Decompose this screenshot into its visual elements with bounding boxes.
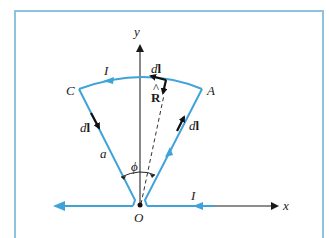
r-hat-label: R [151, 90, 161, 105]
wire-radial-left [79, 89, 135, 206]
biot-savart-loop-diagram: y x O C A I I a ϕ dl dl dl ^ R [0, 0, 329, 238]
origin-point [138, 203, 143, 208]
dl-label-right: dl [189, 118, 200, 133]
current-arrow-arc [103, 77, 114, 84]
radius-label: a [100, 146, 107, 161]
y-axis-label: y [132, 24, 140, 39]
dl-label-left: dl [80, 120, 91, 135]
angle-label: ϕ [131, 159, 138, 174]
r-hat-vector [163, 80, 166, 93]
x-axis-label: x [282, 198, 289, 213]
dl-vector-left [91, 113, 99, 128]
current-arrow-left [53, 201, 65, 211]
point-a-label: A [206, 83, 215, 98]
point-c-label: C [66, 83, 75, 98]
current-arrow-right [193, 202, 203, 210]
origin-label: O [134, 210, 144, 225]
radius-dashed-line [141, 95, 164, 204]
current-label-arc: I [103, 63, 109, 78]
dl-label-arc: dl [151, 61, 162, 76]
angle-arc [121, 172, 155, 177]
current-label-x-axis: I [190, 188, 196, 203]
